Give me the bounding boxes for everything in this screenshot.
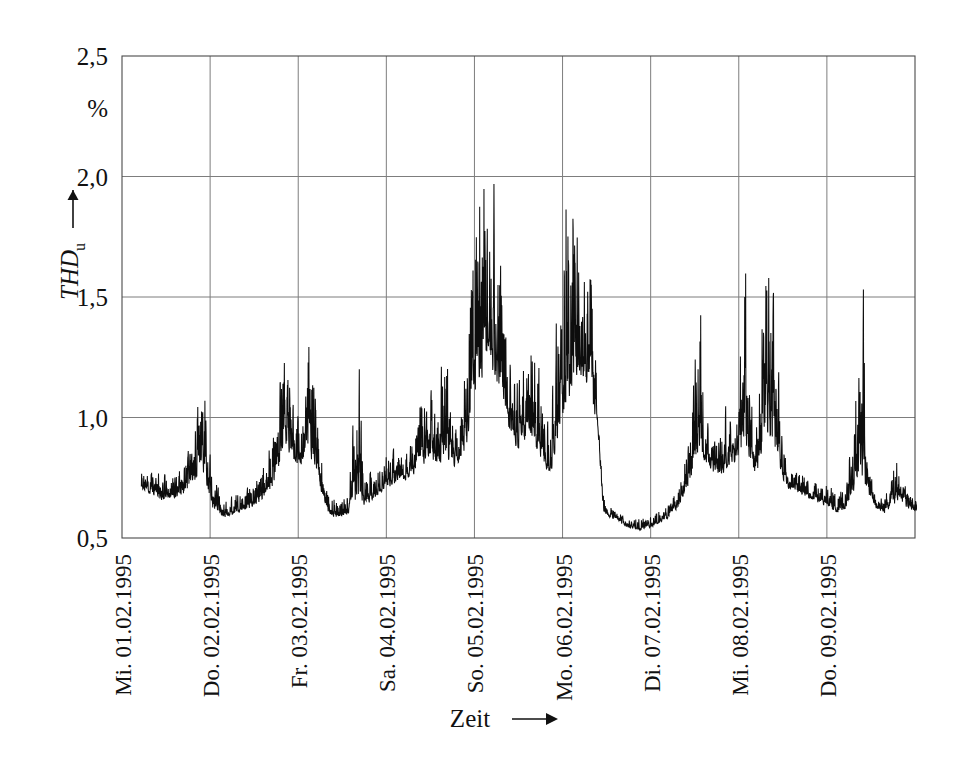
thd-time-series-chart: 0,51,01,52,02,5 % THD u Mi. 01.02.1995Do… [0,0,956,764]
y-axis-title-text: THD [56,250,83,300]
x-axis-title-text: Zeit [450,705,490,732]
x-axis-tick-label: Mi. 08.02.1995 [728,554,753,696]
x-axis-tick-label: Do. 09.02.1995 [816,554,841,697]
x-axis-tick-label: Di. 07.02.1995 [640,554,665,692]
x-axis-tick-label-group: Do. 02.02.1995 [199,554,224,697]
x-axis-tick-label-group: Mi. 08.02.1995 [728,554,753,696]
x-axis-tick-label-group: Do. 09.02.1995 [816,554,841,697]
x-axis-tick-label: Mi. 01.02.1995 [111,554,136,696]
x-axis-tick-label-group: Sa. 04.02.1995 [375,554,400,692]
y-axis-title-subscript: u [71,243,88,251]
x-axis-tick-label-group: So. 05.02.1995 [463,554,488,693]
x-axis-tick-label-group: Mo. 06.02.1995 [552,554,577,701]
x-axis-tick-label-group: Fr. 03.02.1995 [287,554,312,688]
x-axis-tick-label: Do. 02.02.1995 [199,554,224,697]
y-axis-unit-label: % [87,95,108,122]
y-axis-tick-label: 2,0 [77,164,108,191]
x-axis-tick-label-group: Mi. 01.02.1995 [111,554,136,696]
y-axis-tick-label: 0,5 [77,525,108,552]
y-axis-tick-label: 1,0 [77,405,108,432]
x-axis-tick-label: So. 05.02.1995 [463,554,488,693]
x-axis-tick-labels: Mi. 01.02.1995Do. 02.02.1995Fr. 03.02.19… [111,554,841,701]
x-axis-tick-label: Fr. 03.02.1995 [287,554,312,688]
y-axis-tick-label: 2,5 [77,43,108,70]
x-axis-tick-label: Mo. 06.02.1995 [552,554,577,701]
x-axis-tick-label: Sa. 04.02.1995 [375,554,400,692]
x-axis-tick-label-group: Di. 07.02.1995 [640,554,665,692]
